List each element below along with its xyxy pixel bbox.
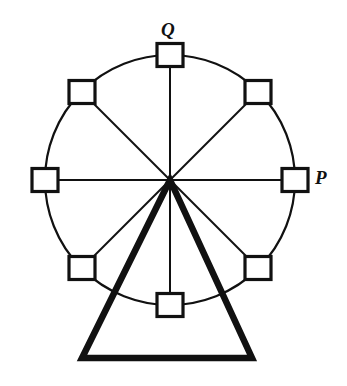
car-upper-left — [69, 81, 95, 104]
support-triangle-group — [82, 180, 252, 358]
car-bottom — [157, 294, 183, 317]
vertex-label-p: P — [315, 168, 327, 187]
car-right — [282, 169, 308, 192]
vertex-label-q: Q — [161, 20, 175, 39]
spoke-car-upper-left — [82, 92, 170, 180]
ferris-wheel-diagram — [0, 0, 347, 386]
car-lower-right — [245, 257, 271, 280]
car-top — [157, 44, 183, 67]
ferris-wheel-figure: Q P — [0, 0, 347, 386]
support-triangle — [82, 180, 252, 358]
spoke-car-upper-right — [170, 92, 258, 180]
spoke-car-lower-left — [82, 180, 170, 268]
car-left — [32, 169, 58, 192]
spoke-car-lower-right — [170, 180, 258, 268]
car-lower-left — [69, 257, 95, 280]
car-upper-right — [245, 81, 271, 104]
